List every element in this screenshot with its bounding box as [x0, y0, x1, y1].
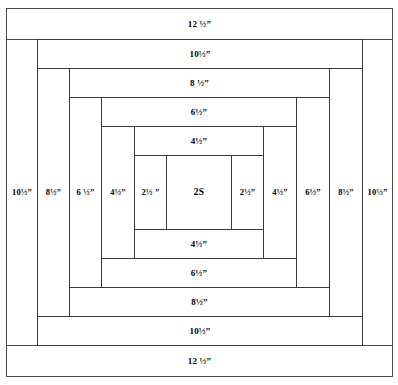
patch-round5-left: 10½”	[6, 39, 38, 346]
patch-round2-bottom: 6½”	[101, 258, 297, 288]
patch-label: 8½”	[338, 188, 353, 197]
patch-label: 4½”	[110, 188, 125, 197]
patch-label: 12 ½”	[188, 357, 212, 366]
patch-label: 6 ½”	[77, 188, 95, 197]
patch-label: 6½”	[191, 108, 207, 117]
patch-round3-bottom: 8½”	[69, 287, 330, 317]
patch-round4-top: 10½”	[37, 39, 363, 69]
patch-label: 10½”	[12, 188, 32, 197]
patch-round1-bottom: 4½”	[134, 229, 264, 259]
patch-round3-top: 8 ½”	[69, 68, 330, 98]
log-cabin-block-diagram: 12 ½” 10½” 10½” 12 ½” 10½” 8½” 8½” 10½” …	[0, 0, 398, 385]
patch-round3-right: 6½”	[296, 97, 330, 288]
patch-round1-top: 4½”	[134, 126, 264, 156]
patch-label: 10½”	[189, 50, 210, 59]
patch-label: 6½”	[305, 188, 320, 197]
patch-round5-bottom: 12 ½”	[6, 345, 393, 377]
patch-label: 12 ½”	[188, 20, 212, 29]
patch-label: 8½”	[191, 298, 207, 307]
patch-label: 4½”	[272, 188, 287, 197]
patch-round2-right: 4½”	[263, 126, 297, 259]
patch-round5-top: 12 ½”	[6, 8, 393, 40]
patch-label: 10½”	[189, 327, 210, 336]
patch-round1-right: 2½”	[231, 155, 264, 230]
patch-round4-bottom: 10½”	[37, 316, 363, 346]
patch-round1-left: 2½ ”	[134, 155, 167, 230]
patch-label: 2½”	[240, 188, 255, 197]
patch-round4-left: 8½”	[37, 68, 70, 317]
patch-round5-right: 10½”	[362, 39, 393, 346]
patch-round4-right: 8½”	[329, 68, 363, 317]
patch-label: 4½”	[191, 240, 207, 249]
patch-label: 10½”	[368, 188, 388, 197]
patch-label: 6½”	[191, 269, 207, 278]
patch-label: 2½ ”	[142, 188, 160, 197]
patch-round2-top: 6½”	[101, 97, 297, 127]
patch-round2-left: 4½”	[101, 126, 135, 259]
center-square-label: 2S	[194, 188, 204, 198]
patch-label: 8 ½”	[190, 79, 209, 88]
patch-round3-left: 6 ½”	[69, 97, 102, 288]
patch-label: 8½”	[46, 188, 61, 197]
patch-center-square: 2S	[166, 155, 232, 230]
patch-label: 4½”	[191, 137, 207, 146]
